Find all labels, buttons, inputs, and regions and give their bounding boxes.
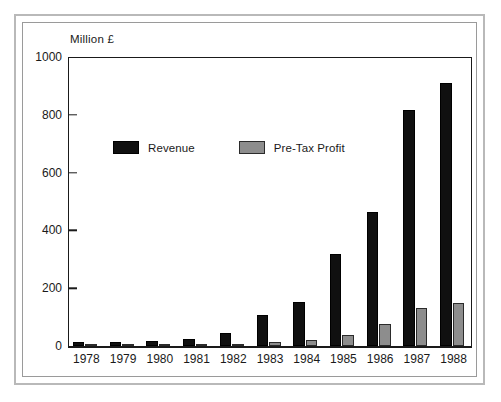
bar-group (293, 57, 317, 346)
chart-legend: Revenue Pre-Tax Profit (113, 141, 345, 154)
bar-revenue (440, 83, 452, 346)
bar-group (146, 57, 170, 346)
bar-pre-tax-profit (342, 335, 354, 346)
y-axis-unit-label: Million £ (70, 33, 114, 45)
x-tick-label: 1983 (257, 352, 284, 366)
x-tick-label: 1986 (367, 352, 394, 366)
bar-pre-tax-profit (85, 344, 97, 346)
bar-pre-tax-profit (122, 344, 134, 346)
bar-chart: Million £ 02004006008001000 197819791980… (0, 0, 501, 402)
bars-layer (68, 57, 472, 346)
legend-item-revenue: Revenue (113, 141, 195, 154)
x-tick-label: 1987 (404, 352, 431, 366)
y-tick-label: 0 (20, 339, 62, 353)
x-tick-label: 1988 (440, 352, 467, 366)
legend-swatch-revenue-icon (113, 141, 139, 154)
x-tick-label: 1978 (73, 352, 100, 366)
chart-page: Million £ 02004006008001000 197819791980… (0, 0, 501, 402)
x-tick-label: 1982 (220, 352, 247, 366)
bar-group (257, 57, 281, 346)
bar-revenue (257, 315, 269, 346)
bar-group (73, 57, 97, 346)
x-tick-label: 1980 (146, 352, 173, 366)
y-tick-label: 200 (20, 281, 62, 295)
bar-revenue (403, 110, 415, 346)
bar-pre-tax-profit (453, 303, 465, 346)
x-tick-label: 1981 (183, 352, 210, 366)
x-tick-label: 1979 (110, 352, 137, 366)
bar-revenue (220, 333, 232, 346)
bar-revenue (293, 302, 305, 346)
bar-group (183, 57, 207, 346)
y-tick-label: 1000 (20, 50, 62, 64)
bar-pre-tax-profit (232, 344, 244, 346)
bar-group (220, 57, 244, 346)
x-axis-line (68, 346, 472, 348)
bar-pre-tax-profit (379, 324, 391, 346)
bar-group (110, 57, 134, 346)
x-tick-label: 1984 (293, 352, 320, 366)
bar-pre-tax-profit (416, 308, 428, 346)
bar-pre-tax-profit (306, 340, 318, 346)
bar-revenue (146, 341, 158, 346)
bar-pre-tax-profit (196, 344, 208, 346)
legend-swatch-profit-icon (239, 141, 265, 154)
bar-pre-tax-profit (269, 342, 281, 346)
y-tick-label: 800 (20, 108, 62, 122)
x-tick-label: 1985 (330, 352, 357, 366)
bar-pre-tax-profit (159, 344, 171, 346)
legend-label-pre-tax-profit: Pre-Tax Profit (274, 142, 345, 154)
y-tick-label: 400 (20, 223, 62, 237)
y-tick-label: 600 (20, 166, 62, 180)
bar-group (440, 57, 464, 346)
bar-group (403, 57, 427, 346)
legend-label-revenue: Revenue (148, 142, 195, 154)
bar-revenue (73, 342, 85, 346)
bar-revenue (110, 342, 122, 346)
bar-revenue (183, 339, 195, 346)
bar-revenue (330, 254, 342, 346)
legend-item-pre-tax-profit: Pre-Tax Profit (239, 141, 345, 154)
y-axis: 02004006008001000 (16, 0, 62, 402)
bar-group (330, 57, 354, 346)
bar-group (367, 57, 391, 346)
bar-revenue (367, 212, 379, 346)
